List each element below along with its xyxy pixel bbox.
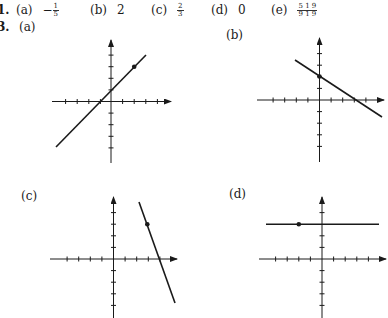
graph-a [52,40,171,163]
graphs-canvas [0,0,388,318]
graph-point [132,64,137,69]
graph-point [317,74,322,79]
graph-point [297,222,302,227]
graph-line [139,202,175,303]
graph-d [259,197,386,318]
graph-c [50,197,177,318]
graph-line [295,60,382,117]
graph-b [257,38,384,162]
graph-point [145,222,150,227]
